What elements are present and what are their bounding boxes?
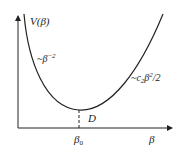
potential-diagram: V(β) ~β−2 ~c2β2/2 D β0 β	[0, 0, 178, 154]
left-branch-label: ~β−2	[37, 52, 56, 64]
x-axis-label: β	[148, 133, 155, 145]
minimum-point-label: D	[87, 112, 96, 124]
minimum-x-label: β0	[73, 133, 83, 147]
y-axis-label: V(β)	[30, 15, 50, 28]
right-branch-label: ~c2β2/2	[131, 71, 161, 85]
